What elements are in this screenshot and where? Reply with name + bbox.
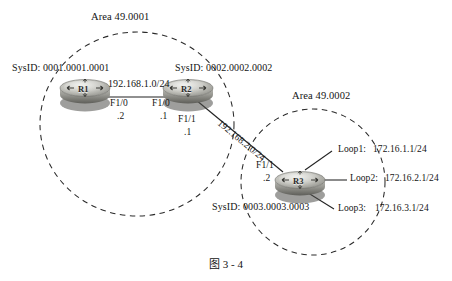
figure-caption: 图 3 - 4 bbox=[0, 255, 452, 271]
router-icon-r1[interactable] bbox=[60, 79, 110, 112]
router-icon-r3[interactable] bbox=[275, 171, 325, 204]
sysid-label-r1: SysID: 0001.0001.0001 bbox=[12, 62, 109, 73]
loopback-label-1: Loop1: bbox=[338, 144, 366, 154]
network-label-192-168-1-0: 192.168.1.0/24 bbox=[108, 78, 170, 89]
octet-label-r1-f1-0: .2 bbox=[117, 111, 124, 121]
loopback-address-1: 172.16.1.1/24 bbox=[373, 144, 427, 154]
area-label-49-0001: Area 49.0001 bbox=[91, 11, 149, 22]
area-label-49-0002: Area 49.0002 bbox=[292, 90, 350, 101]
sysid-label-r2: SysID: 0002.0002.0002 bbox=[175, 62, 272, 73]
loopback-label-3: Loop3: bbox=[338, 203, 366, 213]
network-diagram: Area 49.0001 Area 49.0002 SysID: 0001.00… bbox=[0, 0, 452, 281]
loopback-address-2: 172.16.2.1/24 bbox=[385, 173, 439, 183]
loopback-leader-1 bbox=[305, 151, 332, 170]
loopback-address-3: 172.16.3.1/24 bbox=[375, 203, 429, 213]
diagram-canvas bbox=[0, 0, 452, 281]
interface-label-r2-f1-0: F1/0 bbox=[152, 98, 170, 108]
area-circle-49-0001 bbox=[40, 32, 234, 216]
octet-label-r2-f1-1: .1 bbox=[184, 127, 191, 137]
sysid-label-r3: SysID: 0003.0003.0003 bbox=[212, 201, 309, 212]
router-icon-r2[interactable] bbox=[163, 79, 213, 112]
octet-label-r3-f1-1: .2 bbox=[263, 173, 270, 183]
loopback-label-2: Loop2: bbox=[350, 173, 378, 183]
interface-label-r2-f1-1: F1/1 bbox=[178, 114, 196, 124]
octet-label-r2-f1-0: .1 bbox=[160, 111, 167, 121]
interface-label-r1-f1-0: F1/0 bbox=[110, 98, 128, 108]
